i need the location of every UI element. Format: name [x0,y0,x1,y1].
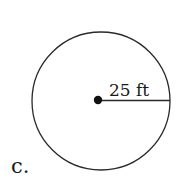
center-point [94,96,102,104]
circle-diagram: 25 ft c. [0,0,177,191]
part-label: c. [11,154,29,178]
radius-label: 25 ft [109,80,149,100]
